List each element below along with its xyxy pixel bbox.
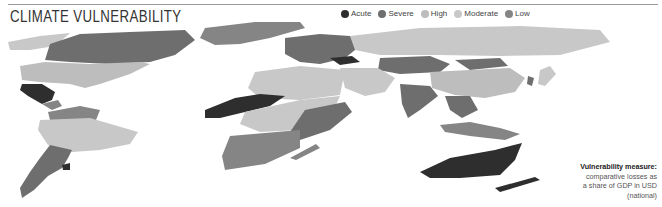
legend-label: Acute <box>351 9 371 18</box>
region-korea <box>527 76 534 86</box>
legend-item-low: Low <box>505 9 530 18</box>
region-central-asia <box>378 56 450 74</box>
severe-swatch-icon <box>378 10 386 18</box>
note-line: (national) <box>580 191 657 201</box>
legend-label: High <box>431 9 447 18</box>
legend: Acute Severe High Moderate Low <box>341 9 530 18</box>
legend-label: Low <box>515 9 530 18</box>
region-russia <box>350 26 610 56</box>
legend-label: Severe <box>388 9 413 18</box>
region-indonesia <box>440 122 520 140</box>
region-argentina <box>20 145 72 198</box>
vulnerability-note: Vulnerability measure: comparative losse… <box>580 162 657 200</box>
top-rule <box>8 4 658 5</box>
region-se-asia <box>445 96 478 118</box>
region-southern-africa <box>222 130 300 170</box>
legend-item-severe: Severe <box>378 9 413 18</box>
note-line: comparative losses as <box>580 172 657 182</box>
moderate-swatch-icon <box>454 10 462 18</box>
note-line: a share of GDP in USD <box>580 181 657 191</box>
region-india <box>400 84 438 118</box>
legend-item-high: High <box>421 9 447 18</box>
legend-label: Moderate <box>464 9 498 18</box>
region-mongolia <box>455 58 508 70</box>
low-swatch-icon <box>505 10 513 18</box>
region-australia <box>420 143 522 178</box>
high-swatch-icon <box>421 10 429 18</box>
legend-item-moderate: Moderate <box>454 9 498 18</box>
legend-item-acute: Acute <box>341 9 371 18</box>
region-japan <box>538 66 556 86</box>
note-heading: Vulnerability measure: <box>580 162 657 171</box>
acute-swatch-icon <box>341 10 349 18</box>
region-middle-east <box>340 68 395 96</box>
region-mexico <box>20 84 55 104</box>
region-china <box>430 68 525 98</box>
region-new-zealand <box>495 177 540 192</box>
world-map <box>0 18 662 207</box>
